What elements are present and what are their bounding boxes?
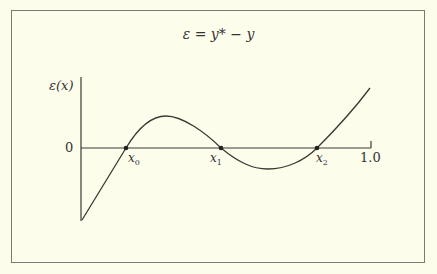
root-label-sub: 1	[217, 158, 222, 167]
figure-title: ε = y* − y	[0, 26, 437, 42]
root-label-sub: 0	[135, 158, 140, 167]
root-label-base: x	[128, 151, 135, 165]
root-label-x0: x0	[128, 151, 140, 167]
root-point-x2	[315, 146, 320, 151]
root-label-sub: 2	[323, 158, 328, 167]
root-label-x2: x2	[316, 151, 328, 167]
root-label-x1: x1	[210, 151, 222, 167]
root-label-base: x	[210, 151, 217, 165]
root-label-base: x	[316, 151, 323, 165]
root-point-x0	[124, 146, 129, 151]
x-end-label: 1.0	[360, 150, 381, 165]
y-axis-label: ε(x)	[49, 78, 73, 93]
root-point-x1	[219, 146, 224, 151]
y-zero-label: 0	[65, 140, 73, 155]
